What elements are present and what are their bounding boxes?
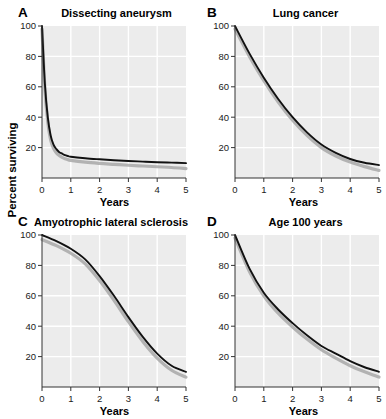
svg-text:4: 4 xyxy=(155,184,160,195)
svg-text:100: 100 xyxy=(213,20,229,31)
svg-text:100: 100 xyxy=(20,229,36,240)
panel-b-plot: 20406080100012345 xyxy=(193,0,386,210)
svg-text:1: 1 xyxy=(261,393,266,404)
svg-text:2: 2 xyxy=(290,393,295,404)
svg-text:2: 2 xyxy=(97,184,102,195)
panel-a-plot: 20406080100012345 xyxy=(0,0,193,210)
svg-text:4: 4 xyxy=(348,393,353,404)
svg-text:1: 1 xyxy=(68,393,73,404)
svg-text:5: 5 xyxy=(183,393,188,404)
panel-b: 20406080100012345 B Lung cancer Years xyxy=(193,0,386,210)
svg-text:20: 20 xyxy=(25,351,36,362)
svg-text:60: 60 xyxy=(218,81,229,92)
panel-a-title: Dissecting aneurysm xyxy=(44,8,189,19)
svg-text:3: 3 xyxy=(126,393,131,404)
svg-text:0: 0 xyxy=(232,393,237,404)
svg-text:2: 2 xyxy=(290,184,295,195)
svg-text:80: 80 xyxy=(218,51,229,62)
panel-d-x-label: Years xyxy=(231,405,376,417)
svg-text:0: 0 xyxy=(232,184,237,195)
svg-text:3: 3 xyxy=(319,184,324,195)
svg-text:100: 100 xyxy=(20,20,36,31)
survival-curves-figure: Percent surviving 20406080100012345 A Di… xyxy=(0,0,386,419)
panel-c-plot: 20406080100012345 xyxy=(0,209,193,419)
svg-text:1: 1 xyxy=(68,184,73,195)
svg-text:0: 0 xyxy=(39,184,44,195)
svg-text:40: 40 xyxy=(25,321,36,332)
svg-text:3: 3 xyxy=(126,184,131,195)
panel-c-x-label: Years xyxy=(42,405,187,417)
panel-a: 20406080100012345 A Dissecting aneurysm … xyxy=(0,0,193,210)
panel-c-letter: C xyxy=(18,215,28,229)
svg-text:60: 60 xyxy=(25,81,36,92)
panel-d-letter: D xyxy=(207,215,217,229)
svg-text:4: 4 xyxy=(155,393,160,404)
svg-text:3: 3 xyxy=(319,393,324,404)
svg-text:1: 1 xyxy=(261,184,266,195)
svg-text:80: 80 xyxy=(25,260,36,271)
panel-b-letter: B xyxy=(207,6,217,20)
svg-text:0: 0 xyxy=(39,393,44,404)
svg-text:40: 40 xyxy=(218,112,229,123)
panel-b-title: Lung cancer xyxy=(233,8,378,19)
svg-text:5: 5 xyxy=(183,184,188,195)
svg-text:5: 5 xyxy=(376,393,381,404)
panel-b-x-label: Years xyxy=(231,196,376,208)
svg-text:100: 100 xyxy=(213,229,229,240)
panel-a-letter: A xyxy=(18,6,28,20)
svg-text:20: 20 xyxy=(25,142,36,153)
svg-text:60: 60 xyxy=(25,290,36,301)
svg-text:4: 4 xyxy=(348,184,353,195)
svg-text:80: 80 xyxy=(25,51,36,62)
panel-a-x-label: Years xyxy=(42,196,187,208)
svg-text:2: 2 xyxy=(97,393,102,404)
panel-c: 20406080100012345 C Amyotrophic lateral … xyxy=(0,209,193,419)
svg-text:60: 60 xyxy=(218,290,229,301)
panel-d-title: Age 100 years xyxy=(233,217,378,228)
svg-text:40: 40 xyxy=(218,321,229,332)
panel-c-title: Amyotrophic lateral sclerosis xyxy=(33,217,189,228)
panel-d-plot: 20406080100012345 xyxy=(193,209,386,419)
panel-d: 20406080100012345 D Age 100 years Years xyxy=(193,209,386,419)
svg-text:40: 40 xyxy=(25,112,36,123)
svg-text:20: 20 xyxy=(218,351,229,362)
svg-text:20: 20 xyxy=(218,142,229,153)
svg-text:5: 5 xyxy=(376,184,381,195)
svg-text:80: 80 xyxy=(218,260,229,271)
